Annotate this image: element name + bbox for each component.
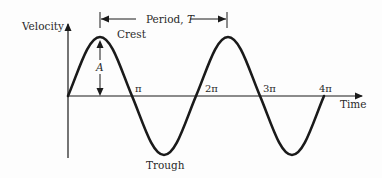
period-label: Period, T	[146, 13, 195, 25]
amplitude-label: A	[95, 61, 104, 73]
trough-label: Trough	[146, 159, 185, 171]
tick-label-2pi: 2π	[205, 83, 218, 94]
crest-label: Crest	[117, 28, 147, 40]
tick-label-4pi: 4π	[319, 83, 332, 94]
y-axis-label: Velocity	[21, 20, 64, 32]
tick-label-pi: π	[135, 83, 142, 94]
tick-label-3pi: 3π	[263, 83, 276, 94]
sine-wave-diagram: A Period, T Velocity Time Crest Trough π…	[0, 0, 382, 178]
diagram-canvas: A Period, T Velocity Time Crest Trough π…	[0, 0, 382, 178]
x-axis-label: Time	[340, 98, 367, 110]
